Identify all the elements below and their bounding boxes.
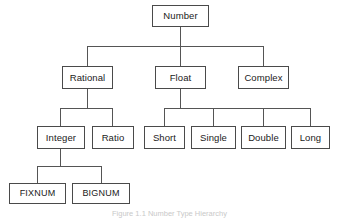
node-fixnum[interactable]: FIXNUM [9, 183, 66, 204]
node-complex-label: Complex [244, 73, 282, 83]
node-fixnum-label: FIXNUM [20, 189, 56, 198]
node-ratio[interactable]: Ratio [92, 126, 134, 149]
node-short[interactable]: Short [144, 126, 185, 149]
node-rational[interactable]: Rational [62, 66, 113, 89]
node-bignum[interactable]: BIGNUM [72, 183, 130, 204]
node-single[interactable]: Single [191, 126, 236, 149]
node-complex[interactable]: Complex [238, 66, 289, 89]
node-double[interactable]: Double [241, 126, 286, 149]
node-long-label: Long [300, 133, 322, 143]
number-type-hierarchy-diagram: Number Rational Float Complex Integer Ra… [0, 0, 339, 220]
node-short-label: Short [153, 133, 176, 143]
node-integer[interactable]: Integer [37, 126, 85, 149]
node-float-label: Float [170, 73, 192, 83]
node-float[interactable]: Float [155, 66, 206, 89]
node-bignum-label: BIGNUM [82, 189, 119, 198]
node-ratio-label: Ratio [102, 133, 125, 143]
node-integer-label: Integer [46, 133, 76, 143]
node-number[interactable]: Number [152, 5, 209, 27]
node-rational-label: Rational [70, 73, 106, 83]
node-number-label: Number [163, 11, 197, 21]
node-single-label: Single [200, 133, 227, 143]
node-double-label: Double [248, 133, 279, 143]
node-long[interactable]: Long [291, 126, 330, 149]
figure-caption: Figure 1.1 Number Type Hierarchy [0, 209, 339, 218]
